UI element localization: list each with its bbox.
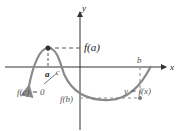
label-f-b: f(b) xyxy=(60,94,73,104)
label-curve: y = f(x) xyxy=(123,86,151,96)
label-c: c xyxy=(56,68,60,77)
y-axis-label: y xyxy=(81,3,86,13)
label-b: b xyxy=(137,55,142,65)
b-point xyxy=(138,96,142,100)
label-a: a xyxy=(45,69,50,79)
function-diagram: y x f(a) a c b f(c) = 0 f(b) y = f(x) xyxy=(0,0,179,131)
x-axis-label: x xyxy=(169,62,174,72)
label-f-a: f(a) xyxy=(84,41,100,54)
label-f-c-eq-0: f(c) = 0 xyxy=(17,87,45,97)
max-point xyxy=(46,46,51,51)
